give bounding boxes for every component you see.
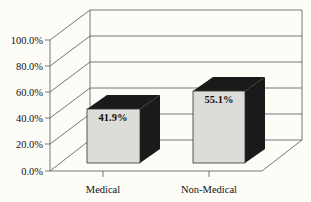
svg-text:60.0%: 60.0% [16,87,43,98]
x-axis-categories: Medical Non-Medical [86,184,237,195]
data-label-non-medical: 55.1% [205,94,234,105]
svg-text:20.0%: 20.0% [16,139,43,150]
y-axis-ticks: 100.0% 80.0% 60.0% 40.0% 20.0% 0.0% [11,35,44,177]
svg-text:40.0%: 40.0% [16,113,43,124]
data-label-medical: 41.9% [99,112,128,123]
svg-text:80.0%: 80.0% [16,61,43,72]
bar-chart-3d: 100.0% 80.0% 60.0% 40.0% 20.0% 0.0% 41.9… [0,0,311,202]
svg-text:100.0%: 100.0% [11,35,44,46]
bar-medical: 41.9% [87,95,160,163]
bar-non-medical: 55.1% [193,77,265,163]
svg-text:Non-Medical: Non-Medical [181,184,237,195]
svg-text:Medical: Medical [86,184,120,195]
svg-text:0.0%: 0.0% [21,166,43,177]
